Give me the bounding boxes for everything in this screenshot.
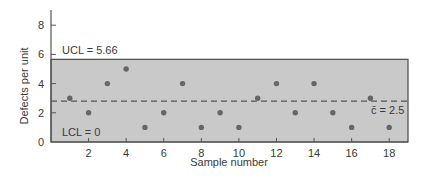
data-point	[142, 125, 147, 130]
data-point	[368, 96, 373, 101]
x-tick-label: 2	[86, 147, 92, 159]
data-point	[123, 66, 128, 71]
x-tick-label: 6	[161, 147, 167, 159]
data-point	[330, 110, 335, 115]
data-point	[180, 81, 185, 86]
data-point	[387, 125, 392, 130]
lcl-label: LCL = 0	[62, 126, 100, 138]
y-axis-title: Defects per unit	[18, 47, 30, 124]
data-point	[293, 110, 298, 115]
x-axis-title: Sample number	[190, 156, 268, 168]
data-point	[311, 81, 316, 86]
data-point	[199, 125, 204, 130]
y-tick-label: 2	[38, 107, 44, 119]
x-tick-label: 4	[123, 147, 129, 159]
x-tick-label: 14	[308, 147, 320, 159]
x-tick-label: 16	[346, 147, 358, 159]
data-point	[86, 110, 91, 115]
data-point	[236, 125, 241, 130]
data-point	[255, 96, 260, 101]
y-tick-label: 6	[38, 48, 44, 60]
y-tick-label: 4	[38, 78, 44, 90]
center-line-label: c̄ = 2.5	[371, 104, 404, 116]
data-point	[161, 110, 166, 115]
ucl-label: UCL = 5.66	[62, 44, 118, 56]
data-point	[67, 96, 72, 101]
y-tick-label: 0	[38, 136, 44, 148]
data-point	[274, 81, 279, 86]
x-tick-label: 18	[383, 147, 395, 159]
data-point	[105, 81, 110, 86]
x-tick-label: 12	[270, 147, 282, 159]
control-chart: 0246824681012141618 UCL = 5.66 LCL = 0 c…	[0, 0, 428, 182]
data-point	[217, 110, 222, 115]
y-tick-label: 8	[38, 19, 44, 31]
data-point	[349, 125, 354, 130]
